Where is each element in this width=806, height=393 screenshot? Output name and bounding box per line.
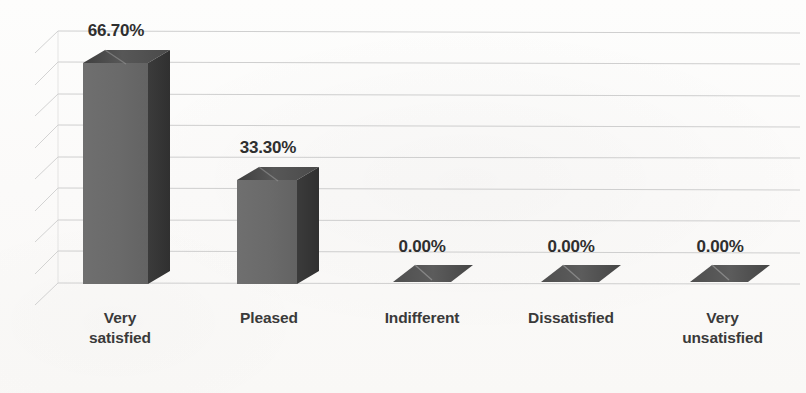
data-label-indifferent: 0.00%: [377, 238, 467, 255]
bar-indifferent[interactable]: [393, 265, 473, 282]
bar-top-face: [541, 265, 621, 282]
bar-top-face: [393, 265, 473, 282]
bar-dissatisfied[interactable]: [541, 265, 621, 282]
bar-top-face: [690, 265, 770, 282]
bar-side-face: [148, 50, 170, 284]
category-label-dissatisfied: Dissatisfied: [506, 308, 636, 328]
category-label-very-satisfied: Very satisfied: [60, 308, 180, 349]
data-label-very-unsatisfied: 0.00%: [675, 238, 765, 255]
bar-very-satisfied[interactable]: [83, 50, 170, 284]
category-label-very-unsatisfied: Very unsatisfied: [655, 308, 790, 349]
data-label-very-satisfied: 66.70%: [61, 22, 171, 39]
bar-front-face: [237, 180, 297, 284]
chart-page: 66.70% 33.30% 0.00% 0.00% 0.00% Very sat…: [0, 0, 806, 393]
bar-pleased[interactable]: [237, 167, 319, 284]
data-label-pleased: 33.30%: [213, 139, 323, 156]
bar-side-face: [297, 167, 319, 284]
chart-plot-area: 66.70% 33.30% 0.00% 0.00% 0.00% Very sat…: [0, 0, 806, 393]
depth-diagonals: [35, 31, 58, 305]
category-label-pleased: Pleased: [209, 308, 329, 328]
category-label-indifferent: Indifferent: [358, 308, 486, 328]
bar-front-face: [83, 63, 148, 284]
bar-very-unsatisfied[interactable]: [690, 265, 770, 282]
data-label-dissatisfied: 0.00%: [526, 238, 616, 255]
